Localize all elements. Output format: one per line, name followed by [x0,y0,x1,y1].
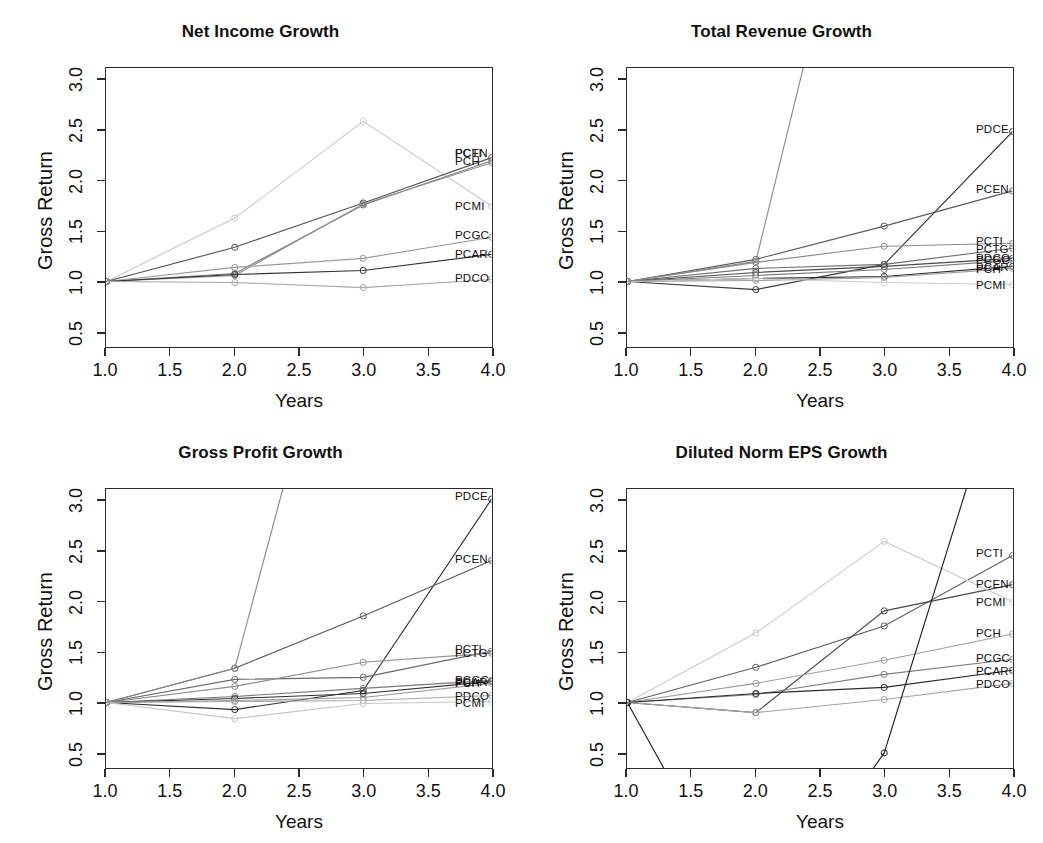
series-line [627,0,884,282]
y-tick-mark [97,281,105,283]
series-line [627,634,1012,702]
x-axis-title: Years [626,811,1014,833]
panel-net-income-growth: Net Income Growth Gross ReturnYears0.51.… [0,0,521,421]
x-tick-mark [104,769,106,777]
x-tick-label: 1.0 [596,360,656,381]
series-label-pch: PCH [455,677,480,689]
y-tick-mark [618,231,626,233]
series-label-pcti: PCTI [976,547,1003,559]
x-tick-label: 1.5 [140,360,200,381]
y-tick-label: 2.0 [66,582,87,622]
series-label-pcmi: PCMI [455,200,485,212]
y-tick-label: 0.5 [66,313,87,353]
series-label-pdco: PDCO [976,678,1010,690]
series-label-pcar: PCAR [455,248,488,260]
x-tick-label: 3.0 [855,360,915,381]
y-tick-mark [97,499,105,501]
y-tick-label: 3.0 [587,60,608,100]
x-tick-label: 2.5 [790,781,850,802]
panel-title: Net Income Growth [0,22,521,42]
y-tick-label: 3.0 [66,481,87,521]
series-label-pdce: PDCE [455,490,488,502]
x-tick-mark [690,348,692,356]
y-tick-mark [618,332,626,334]
series-label-pctg: PCTG [455,647,488,659]
x-tick-label: 2.5 [269,360,329,381]
series-label-pdco: PDCO [455,272,489,284]
y-tick-label: 2.5 [587,531,608,571]
y-tick-label: 1.0 [587,263,608,303]
x-tick-mark [625,769,627,777]
y-tick-label: 2.0 [66,161,87,201]
y-tick-mark [97,652,105,654]
x-tick-label: 3.0 [855,781,915,802]
y-tick-label: 3.0 [587,481,608,521]
x-tick-label: 3.5 [398,360,458,381]
y-tick-mark [97,550,105,552]
x-tick-mark [690,769,692,777]
series-label-pcen: PCEN [976,183,1009,195]
y-tick-mark [618,499,626,501]
x-tick-label: 3.0 [334,360,394,381]
x-tick-mark [625,348,627,356]
x-tick-mark [428,348,430,356]
x-tick-mark [363,769,365,777]
x-tick-label: 2.0 [204,781,264,802]
panel-total-revenue-growth: Total Revenue Growth Gross ReturnYears0.… [521,0,1042,421]
y-tick-label: 0.5 [66,734,87,774]
y-axis-title: Gross Return [555,572,578,691]
y-tick-mark [618,281,626,283]
x-tick-mark [884,348,886,356]
y-tick-label: 1.5 [66,633,87,673]
y-tick-mark [618,180,626,182]
x-tick-mark [363,348,365,356]
plot-area [105,67,493,348]
x-tick-mark [949,769,951,777]
x-tick-label: 1.0 [596,781,656,802]
panel-diluted-norm-eps-growth: Diluted Norm EPS Growth Gross ReturnYear… [521,421,1042,842]
y-tick-mark [97,78,105,80]
series-line [106,237,491,281]
x-axis-title: Years [105,390,493,412]
y-tick-label: 0.5 [587,734,608,774]
y-tick-label: 2.5 [66,531,87,571]
x-tick-label: 3.5 [919,360,979,381]
x-tick-mark [1013,348,1015,356]
x-tick-label: 2.5 [269,781,329,802]
y-axis-title: Gross Return [555,151,578,270]
x-tick-label: 1.0 [75,360,135,381]
figure-root: Net Income Growth Gross ReturnYears0.51.… [0,0,1043,843]
y-tick-label: 2.5 [66,110,87,150]
series-canvas [106,68,492,347]
y-tick-mark [97,180,105,182]
series-line [106,561,491,703]
y-tick-mark [618,652,626,654]
x-tick-label: 3.5 [398,781,458,802]
panel-title: Diluted Norm EPS Growth [521,443,1042,463]
series-label-pch: PCH [976,627,1001,639]
x-axis-title: Years [105,811,493,833]
series-label-pcmi: PCMI [455,697,485,709]
plot-area [626,67,1014,348]
x-tick-mark [169,348,171,356]
series-label-pdce: PDCE [976,123,1009,135]
series-label-pcgc: PCGC [455,229,489,241]
x-tick-mark [428,769,430,777]
y-tick-label: 1.5 [587,633,608,673]
y-tick-mark [97,601,105,603]
y-tick-mark [97,129,105,131]
y-axis-title: Gross Return [34,572,57,691]
x-tick-mark [492,348,494,356]
series-label-pcen: PCEN [455,553,488,565]
y-tick-mark [97,231,105,233]
x-axis-title: Years [626,390,1014,412]
x-tick-mark [1013,769,1015,777]
y-tick-label: 3.0 [66,60,87,100]
y-tick-label: 1.5 [66,212,87,252]
x-tick-label: 2.0 [725,360,785,381]
x-tick-mark [819,769,821,777]
series-label-pcgc: PCGC [976,652,1010,664]
y-tick-label: 1.0 [66,684,87,724]
x-tick-mark [104,348,106,356]
y-tick-mark [618,78,626,80]
